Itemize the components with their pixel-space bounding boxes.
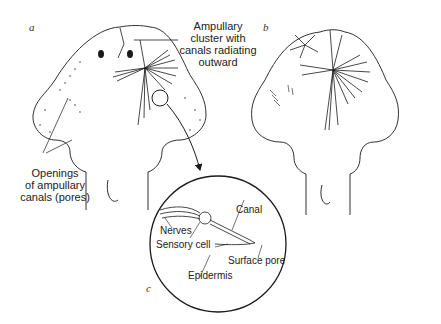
ray-b-outline (252, 30, 399, 215)
panel-label-c: c (146, 282, 151, 294)
callout-line: Openings (15, 167, 95, 179)
panel-label-a: a (29, 21, 35, 33)
magnify-arrow (167, 104, 200, 170)
ray-b-ampullary-canals (290, 30, 370, 130)
openings-callout: Openings of ampullary canals (pores) (15, 167, 95, 203)
label-canal: Canal (236, 204, 262, 216)
ray-a-eyes (98, 50, 133, 58)
ray-a-pores (39, 61, 200, 132)
callout-line: Ampullary (178, 20, 258, 32)
ray-a-ampullary-canals (113, 28, 178, 125)
callout-line: cluster with (178, 32, 258, 44)
label-surface-pore: Surface pore (228, 255, 285, 267)
label-sensory-cell: Sensory cell (156, 239, 210, 251)
callout-line: canals radiating (178, 44, 258, 56)
ray-a-magnify-circle (152, 90, 168, 106)
panel-label-b: b (263, 21, 269, 33)
label-nerves: Nerves (160, 225, 192, 237)
label-epidermis: Epidermis (188, 270, 232, 282)
ampullary-cluster-callout: Ampullary cluster with canals radiating … (178, 20, 258, 68)
ray-b-pores (270, 85, 293, 106)
callout-line: canals (pores) (15, 191, 95, 203)
callout-line: of ampullary (15, 179, 95, 191)
callout-line: outward (178, 56, 258, 68)
